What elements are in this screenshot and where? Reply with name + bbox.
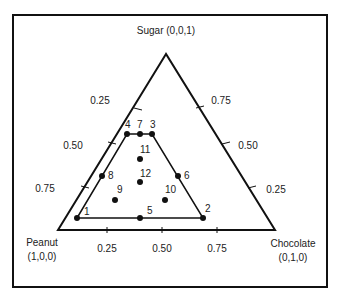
design-point-label: 5 <box>147 205 153 216</box>
design-point-label: 6 <box>184 170 190 181</box>
left-tick-label: 0.50 <box>63 140 83 151</box>
peanut-vertex-name: Peanut <box>26 237 58 248</box>
design-point-marker <box>124 131 130 137</box>
design-point-label: 4 <box>125 119 131 130</box>
bottom-tick-label: 0.50 <box>152 243 172 254</box>
design-point-label: 10 <box>165 184 177 195</box>
bottom-tick-label: 0.75 <box>207 243 227 254</box>
design-point-marker <box>137 131 143 137</box>
left-tick-label: 0.75 <box>35 183 55 194</box>
right-tick-label: 0.75 <box>211 95 231 106</box>
left-tick-label: 0.25 <box>90 95 110 106</box>
sugar-vertex-label: Sugar (0,0,1) <box>137 25 195 36</box>
design-point-marker <box>74 215 80 221</box>
design-point-label: 8 <box>108 170 114 181</box>
design-point-label: 1 <box>84 206 90 217</box>
design-point-marker <box>137 156 143 162</box>
right-tick-label: 0.50 <box>238 140 258 151</box>
right-tick-label: 0.25 <box>266 184 286 195</box>
design-point-marker <box>112 197 118 203</box>
design-point-marker <box>149 131 155 137</box>
ternary-diagram: Sugar (0,0,1) Peanut (1,0,0) Chocolate (… <box>0 0 341 301</box>
design-point-label: 12 <box>140 168 152 179</box>
design-point-label: 3 <box>150 119 156 130</box>
design-point-marker <box>137 179 143 185</box>
design-point-marker <box>175 173 181 179</box>
design-point-label: 7 <box>137 119 143 130</box>
bottom-tick-label: 0.25 <box>97 243 117 254</box>
design-point-label: 2 <box>205 203 211 214</box>
design-point-marker <box>137 215 143 221</box>
design-point-label: 11 <box>140 144 151 155</box>
design-point-marker <box>200 215 206 221</box>
chocolate-vertex-coords: (0,1,0) <box>279 252 308 263</box>
peanut-vertex-coords: (1,0,0) <box>28 251 57 262</box>
chocolate-vertex-name: Chocolate <box>270 238 315 249</box>
design-point-label: 9 <box>117 184 123 195</box>
design-point-marker <box>162 197 168 203</box>
design-point-marker <box>99 173 105 179</box>
